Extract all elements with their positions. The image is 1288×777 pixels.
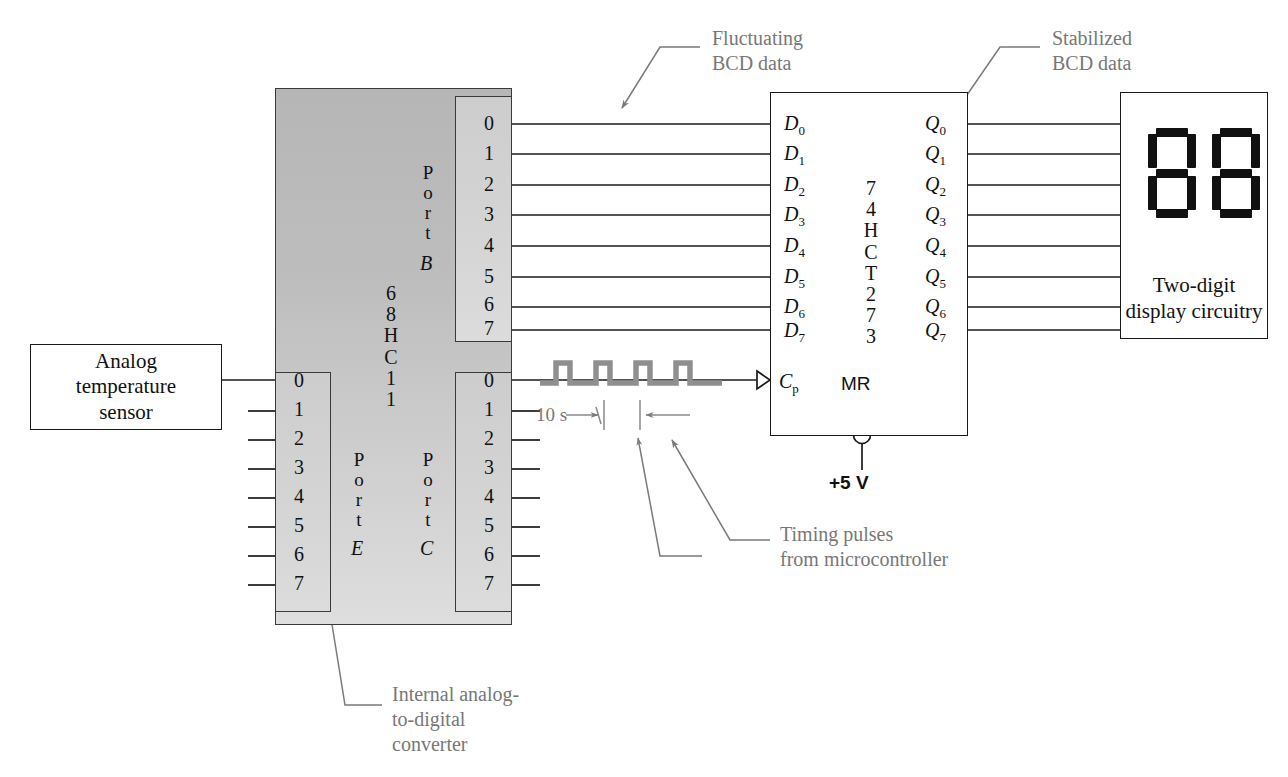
port-e-pin-2: 2 [288, 427, 310, 450]
display-line-2: display circuitry [1120, 298, 1268, 324]
latch-input-d7: D7 [784, 319, 805, 346]
port-c-pin-1: 1 [478, 398, 500, 421]
latch-clock-label: Cp [779, 370, 799, 397]
port-e-word-char-0: P [354, 450, 365, 470]
digit1-seg-a [1156, 128, 1188, 137]
latch-output-q4: Q4 [925, 234, 946, 261]
d4-base: D [784, 234, 798, 256]
port-b-word: P o r t [417, 163, 439, 244]
mcu-label-char-4: 1 [386, 368, 396, 389]
q2-base: Q [925, 173, 939, 195]
latch-input-d1: D1 [784, 142, 805, 169]
port-c-word-char-1: o [423, 470, 433, 490]
adc-line-2: to-digital [392, 707, 519, 732]
port-c-pin-4: 4 [478, 485, 500, 508]
port-c-pin-stubs [512, 411, 540, 585]
port-b-word-char-2: r [425, 203, 431, 223]
adc-line-3: converter [392, 732, 519, 757]
digit2-seg-b [1251, 134, 1260, 168]
latch-label-char-2: H [864, 220, 878, 241]
mcu-label-char-1: 8 [386, 304, 396, 325]
d5-base: D [784, 265, 798, 287]
latch-master-reset-label: MR [841, 373, 871, 395]
port-e-pin-4: 4 [288, 485, 310, 508]
q4-base: Q [925, 234, 939, 256]
port-e-pin-1: 1 [288, 398, 310, 421]
seven-segment-digit-2 [1212, 128, 1260, 218]
port-b-pin-2: 2 [478, 173, 500, 196]
port-e-word-char-3: t [356, 510, 361, 530]
d2-base: D [784, 173, 798, 195]
digit2-seg-d [1220, 209, 1252, 218]
mcu-label-char-5: 1 [386, 389, 396, 410]
port-b-pin-3: 3 [478, 203, 500, 226]
digit2-seg-a [1220, 128, 1252, 137]
digit1-seg-b [1187, 134, 1196, 168]
q7-sub: 7 [939, 330, 946, 345]
latch-output-q5: Q5 [925, 265, 946, 292]
port-b-pin-7: 7 [478, 317, 500, 340]
digit1-seg-d [1156, 209, 1188, 218]
sensor-line-3: sensor [99, 400, 153, 426]
latch-input-d5: D5 [784, 265, 805, 292]
q0-sub: 0 [939, 123, 946, 138]
port-c-pin-2: 2 [478, 427, 500, 450]
timing-waveform [540, 363, 722, 383]
annotation-internal-adc: Internal analog- to-digital converter [392, 682, 519, 757]
port-b-pin-6: 6 [478, 293, 500, 316]
fluctuating-line-2: BCD data [712, 51, 803, 76]
port-e-pin-stubs [248, 411, 275, 585]
port-c-word: P o r t [417, 450, 439, 531]
port-b-word-char-3: t [425, 223, 430, 243]
latch-label-char-6: 7 [866, 305, 876, 326]
cp-base: C [779, 370, 792, 392]
q6-base: Q [925, 295, 939, 317]
port-b-word-char-0: P [423, 163, 434, 183]
display-line-1: Two-digit [1120, 272, 1268, 298]
annotation-period-10s: 10 s [536, 403, 567, 427]
mcu-chip-label: 6 8 H C 1 1 [378, 283, 404, 410]
port-c-word-char-2: r [425, 490, 431, 510]
latch-output-q2: Q2 [925, 173, 946, 200]
port-e-word-char-1: o [354, 470, 364, 490]
latch-chip-label: 7 4 H C T 2 7 3 [858, 178, 884, 348]
q5-sub: 5 [939, 276, 946, 291]
latch-input-d4: D4 [784, 234, 805, 261]
latch-label-char-1: 4 [866, 199, 876, 220]
q2-sub: 2 [939, 184, 946, 199]
port-c-pin-3: 3 [478, 456, 500, 479]
digit1-seg-c [1187, 176, 1196, 210]
q3-sub: 3 [939, 214, 946, 229]
latch-input-d6: D6 [784, 295, 805, 322]
mcu-label-char-2: H [384, 325, 398, 346]
d3-sub: 3 [798, 214, 805, 229]
d2-sub: 2 [798, 184, 805, 199]
q4-sub: 4 [939, 245, 946, 260]
port-c-word-char-3: t [425, 510, 430, 530]
port-b-word-char-1: o [423, 183, 433, 203]
latch-label-char-3: C [864, 242, 877, 263]
stabilized-line-2: BCD data [1052, 51, 1132, 76]
annotation-timing-pulses: Timing pulses from microcontroller [780, 522, 948, 572]
sensor-line-1: Analog [95, 349, 157, 375]
port-e-pin-5: 5 [288, 514, 310, 537]
digit1-seg-g [1156, 169, 1188, 178]
digit2-seg-g [1220, 169, 1252, 178]
digit1-seg-f [1148, 134, 1157, 168]
q1-sub: 1 [939, 153, 946, 168]
mcu-label-char-3: C [384, 347, 397, 368]
analog-temperature-sensor-box: Analog temperature sensor [30, 344, 222, 430]
port-c-word-char-0: P [423, 450, 434, 470]
digit1-seg-e [1148, 176, 1157, 210]
timing-pulse-leader [638, 438, 702, 556]
display-caption: Two-digit display circuitry [1120, 272, 1268, 325]
latch-to-display-bus [968, 124, 1120, 330]
port-b-pin-5: 5 [478, 265, 500, 288]
latch-input-d3: D3 [784, 203, 805, 230]
port-e-pin-3: 3 [288, 456, 310, 479]
latch-label-char-0: 7 [866, 178, 876, 199]
port-c-pin-0: 0 [478, 369, 500, 392]
d6-base: D [784, 295, 798, 317]
latch-label-char-5: 2 [866, 284, 876, 305]
latch-output-q3: Q3 [925, 203, 946, 230]
